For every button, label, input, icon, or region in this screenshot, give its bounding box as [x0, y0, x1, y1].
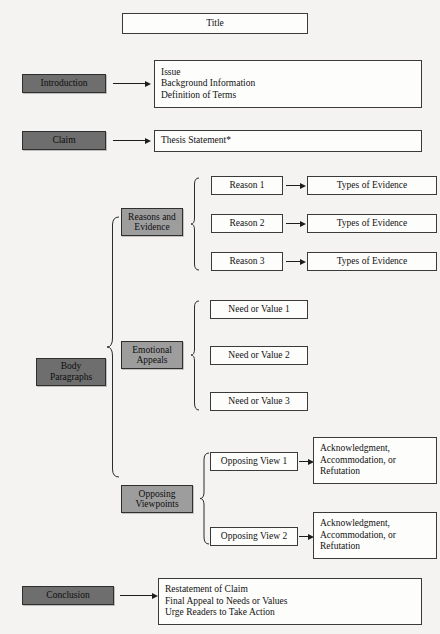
opposing-response-1-line-2: Accommodation, or — [320, 455, 396, 467]
conclusion-content-lines: Restatement of Claim Final Appeal to Nee… — [165, 584, 288, 619]
substage-emotional-label-line1: Emotional — [132, 345, 172, 355]
need-value-box-1: Need or Value 1 — [210, 300, 308, 319]
need-value-3-label: Need or Value 3 — [228, 396, 289, 408]
stage-claim: Claim — [22, 131, 106, 150]
conclusion-content-box: Restatement of Claim Final Appeal to Nee… — [158, 578, 422, 625]
stage-conclusion: Conclusion — [22, 586, 114, 605]
substage-emotional-label-line2: Appeals — [136, 355, 167, 365]
arrow-opposing-view-1 — [299, 458, 314, 465]
substage-reasons-label-line1: Reasons and — [128, 212, 176, 222]
brace-body-paragraphs — [106, 216, 120, 478]
arrow-introduction — [113, 80, 151, 87]
opposing-view-box-2: Opposing View 2 — [210, 527, 298, 546]
introduction-content-box: Issue Background Information Definition … — [154, 60, 422, 108]
need-value-box-2: Need or Value 2 — [210, 346, 308, 365]
arrow-conclusion — [120, 592, 158, 599]
stage-conclusion-label: Conclusion — [46, 590, 89, 601]
brace-opposing-viewpoints — [199, 452, 210, 545]
reason-box-1: Reason 1 — [211, 176, 283, 195]
claim-content-box: Thesis Statement* — [154, 130, 422, 152]
reason-box-2: Reason 2 — [211, 214, 283, 233]
arrow-reason-3 — [286, 258, 306, 265]
substage-opposing-label-line1: Opposing — [139, 489, 176, 499]
introduction-content-lines: Issue Background Information Definition … — [161, 67, 255, 102]
opposing-response-1-line-1: Acknowledgment, — [320, 443, 396, 455]
evidence-2-label: Types of Evidence — [337, 218, 408, 230]
conclusion-line-2: Final Appeal to Needs or Values — [165, 596, 288, 608]
reason-1-label: Reason 1 — [229, 180, 264, 192]
need-value-1-label: Need or Value 1 — [228, 304, 289, 316]
reason-3-label: Reason 3 — [229, 256, 264, 268]
opposing-view-1-label: Opposing View 1 — [221, 456, 287, 468]
arrow-reason-2 — [286, 220, 306, 227]
introduction-line-1: Issue — [161, 67, 255, 79]
brace-reasons — [190, 177, 200, 271]
substage-opposing-viewpoints: Opposing Viewpoints — [121, 485, 193, 513]
title-box-label: Title — [206, 18, 224, 30]
reason-box-3: Reason 3 — [211, 252, 283, 271]
reason-2-label: Reason 2 — [229, 218, 264, 230]
substage-reasons-and-evidence: Reasons and Evidence — [121, 208, 183, 236]
stage-claim-label: Claim — [52, 135, 75, 146]
opposing-view-box-1: Opposing View 1 — [210, 452, 298, 471]
opposing-response-1-line-3: Refutation — [320, 466, 396, 478]
arrow-claim — [113, 137, 151, 144]
conclusion-line-3: Urge Readers to Take Action — [165, 607, 288, 619]
opposing-response-1-lines: Acknowledgment, Accommodation, or Refuta… — [320, 443, 396, 478]
introduction-line-3: Definition of Terms — [161, 90, 255, 102]
substage-opposing-label-line2: Viewpoints — [135, 499, 178, 509]
opposing-response-2-line-1: Acknowledgment, — [320, 518, 396, 530]
need-value-box-3: Need or Value 3 — [210, 392, 308, 411]
claim-line-1: Thesis Statement* — [161, 135, 231, 147]
stage-body-label-line2: Paragraphs — [50, 372, 92, 383]
opposing-response-box-1: Acknowledgment, Accommodation, or Refuta… — [313, 437, 437, 484]
evidence-box-3: Types of Evidence — [307, 252, 437, 271]
brace-emotional-appeals — [190, 300, 200, 411]
opposing-response-2-line-2: Accommodation, or — [320, 530, 396, 542]
stage-introduction: Introduction — [22, 74, 106, 93]
claim-content-lines: Thesis Statement* — [161, 135, 231, 147]
substage-emotional-appeals: Emotional Appeals — [121, 341, 183, 369]
diagram-canvas: Title Introduction Issue Background Info… — [0, 0, 440, 634]
opposing-view-2-label: Opposing View 2 — [221, 531, 287, 543]
evidence-3-label: Types of Evidence — [337, 256, 408, 268]
opposing-response-2-line-3: Refutation — [320, 541, 396, 553]
arrow-reason-1 — [286, 182, 306, 189]
opposing-response-box-2: Acknowledgment, Accommodation, or Refuta… — [313, 512, 437, 559]
evidence-1-label: Types of Evidence — [337, 180, 408, 192]
evidence-box-1: Types of Evidence — [307, 176, 437, 195]
introduction-line-2: Background Information — [161, 78, 255, 90]
arrow-opposing-view-2 — [299, 533, 314, 540]
substage-reasons-label-line2: Evidence — [134, 222, 169, 232]
title-box: Title — [122, 13, 308, 34]
opposing-response-2-lines: Acknowledgment, Accommodation, or Refuta… — [320, 518, 396, 553]
stage-body-paragraphs: Body Paragraphs — [36, 358, 106, 386]
evidence-box-2: Types of Evidence — [307, 214, 437, 233]
conclusion-line-1: Restatement of Claim — [165, 584, 288, 596]
need-value-2-label: Need or Value 2 — [228, 350, 289, 362]
stage-introduction-label: Introduction — [41, 78, 88, 89]
stage-body-label-line1: Body — [61, 361, 82, 372]
